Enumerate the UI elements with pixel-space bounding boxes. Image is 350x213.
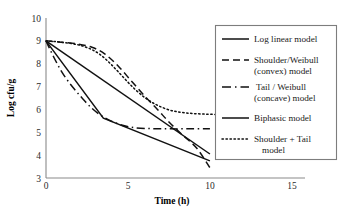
curve-tail-weibull-concave: [46, 41, 210, 129]
y-tick-label: 8: [36, 59, 41, 69]
y-axis-title: Log cfu/g: [6, 79, 16, 118]
curve-shoulder-weibull-convex: [46, 41, 210, 168]
legend-label: Shoulder + Tail: [254, 134, 311, 144]
x-tick-label: 0: [44, 181, 49, 191]
chart-curves: [46, 41, 236, 168]
y-tick-label: 10: [32, 14, 42, 24]
legend-label: Shoulder/Weibull: [254, 55, 319, 65]
y-tick-label: 9: [36, 36, 41, 46]
legend-label: Biphasic model: [254, 113, 312, 123]
legend-label-cont: (concave) model: [254, 93, 316, 103]
y-tick-label: 4: [36, 151, 41, 161]
legend-label-cont: (convex) model: [254, 66, 312, 76]
y-tick-label: 7: [36, 82, 41, 92]
chart-legend: Log linear model Shoulder/Weibull (conve…: [216, 26, 337, 160]
x-tick-label: 10: [205, 181, 215, 191]
y-tick-labels: 10 9 8 7 6 5 4 3: [32, 14, 42, 184]
y-tick-label: 3: [36, 174, 41, 184]
legend-label: Tail / Weibull: [256, 82, 306, 92]
x-tick-label: 15: [287, 181, 297, 191]
legend-label-cont: model: [262, 145, 285, 155]
curve-shoulder-plus-tail: [46, 41, 236, 115]
legend-label: Log linear model: [254, 34, 318, 44]
curve-biphasic: [46, 41, 210, 161]
y-tick-label: 6: [36, 105, 41, 115]
x-axis-title: Time (h): [155, 196, 190, 207]
chart-figure: 10 9 8 7 6 5 4 3 0 5 10 15 Time (h) Log …: [0, 0, 350, 213]
survival-curve-chart: 10 9 8 7 6 5 4 3 0 5 10 15 Time (h) Log …: [0, 0, 350, 213]
x-tick-labels: 0 5 10 15: [44, 181, 297, 191]
y-tick-label: 5: [36, 128, 41, 138]
x-tick-label: 5: [126, 181, 131, 191]
